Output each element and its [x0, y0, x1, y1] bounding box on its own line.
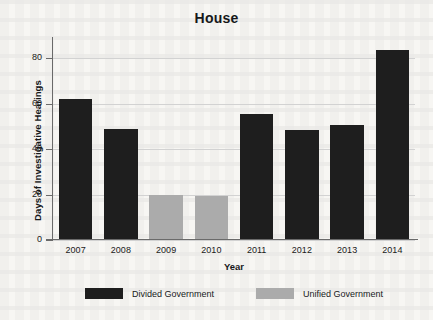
- bar: [104, 129, 137, 240]
- chart-legend: Divided GovernmentUnified Government: [53, 288, 415, 299]
- gridline: [53, 58, 415, 59]
- x-tick-label: 2010: [189, 245, 234, 255]
- y-tick-label: 80: [0, 52, 42, 62]
- x-tick-label: 2011: [234, 245, 279, 255]
- x-tick-label: 2014: [370, 245, 415, 255]
- bar: [195, 196, 228, 240]
- bar: [285, 130, 318, 240]
- bar: [240, 114, 273, 240]
- chart-title: House: [0, 10, 433, 26]
- bar: [149, 195, 182, 240]
- legend-label: Divided Government: [132, 289, 214, 299]
- y-tick-label: 0: [0, 234, 42, 244]
- bar: [330, 125, 363, 240]
- bar-chart-figure: House Days of Investigative Hearings 020…: [0, 0, 433, 320]
- legend-swatch: [256, 288, 294, 299]
- legend-swatch: [85, 288, 123, 299]
- x-tick-label: 2008: [98, 245, 143, 255]
- y-tick-mark: [46, 58, 52, 59]
- y-tick-label: 40: [0, 143, 42, 153]
- y-tick-mark: [46, 195, 52, 196]
- y-tick-mark: [46, 240, 52, 241]
- x-axis-title: Year: [53, 261, 415, 272]
- bar: [376, 50, 409, 240]
- y-tick-label: 60: [0, 98, 42, 108]
- bar: [59, 99, 92, 240]
- y-tick-mark: [46, 149, 52, 150]
- x-tick-label: 2009: [144, 245, 189, 255]
- gridline: [53, 104, 415, 105]
- x-tick-label: 2012: [279, 245, 324, 255]
- y-tick-label: 20: [0, 189, 42, 199]
- x-tick-label: 2013: [325, 245, 370, 255]
- y-tick-mark: [46, 104, 52, 105]
- legend-entry: Divided Government: [85, 288, 214, 299]
- plot-area: [53, 40, 415, 240]
- y-axis-line: [52, 37, 53, 241]
- x-tick-label: 2007: [53, 245, 98, 255]
- legend-entry: Unified Government: [256, 288, 383, 299]
- x-axis-line: [46, 239, 418, 240]
- legend-label: Unified Government: [303, 289, 383, 299]
